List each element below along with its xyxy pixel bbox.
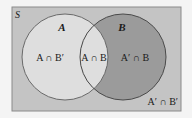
universe-label: S [15,9,20,20]
set-b-label: B [117,21,125,33]
region-neither-label: A′ ∩ B′ [148,96,179,107]
region-b-only-label: A′ ∩ B [121,52,150,63]
region-intersection-label: A ∩ B [81,52,107,63]
venn-diagram: S A B A ∩ B′ A ∩ B A′ ∩ B A′ ∩ B′ [0,0,192,118]
region-a-only-label: A ∩ B′ [36,52,64,63]
set-a-label: A [57,21,65,33]
